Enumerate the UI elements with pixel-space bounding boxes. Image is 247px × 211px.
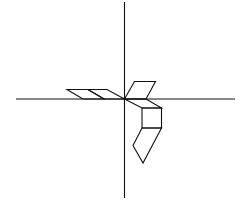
tangram-shapes (67, 82, 162, 164)
upper-right-parallelogram (125, 82, 156, 100)
tangram-axes-diagram (0, 0, 247, 211)
square-top-parallelogram (125, 99, 162, 108)
left-parallelogram-outer (67, 90, 104, 100)
square (142, 108, 162, 128)
diagram-svg (0, 0, 247, 211)
left-parallelogram-inner (88, 90, 125, 100)
lower-pentagon (133, 128, 162, 163)
